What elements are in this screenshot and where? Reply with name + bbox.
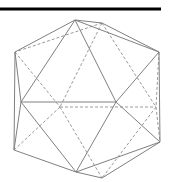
hidden-edge-BK bbox=[60, 23, 102, 107]
hidden-edges bbox=[14, 23, 160, 178]
visible-edge-GI bbox=[14, 150, 76, 172]
visible-edge-DF bbox=[116, 52, 159, 102]
hidden-edge-CK bbox=[15, 52, 60, 107]
visible-edge-AD bbox=[75, 20, 159, 52]
visible-edge-DH bbox=[159, 52, 160, 142]
hidden-edge-KJ bbox=[60, 107, 102, 178]
icosahedron-diagram bbox=[0, 0, 173, 182]
visible-edge-AF bbox=[75, 20, 116, 102]
visible-edge-EI bbox=[21, 102, 76, 172]
visible-edge-FH bbox=[116, 102, 160, 142]
visible-edges bbox=[14, 20, 160, 178]
visible-edge-EG bbox=[14, 102, 21, 150]
visible-edge-BD bbox=[102, 23, 159, 52]
visible-edge-FI bbox=[76, 102, 116, 172]
hidden-edge-LJ bbox=[102, 107, 156, 178]
visible-edge-AE bbox=[21, 20, 75, 102]
visible-edge-CG bbox=[14, 52, 15, 150]
visible-edge-IJ bbox=[76, 172, 102, 178]
hidden-edge-DL bbox=[156, 52, 159, 107]
visible-edge-AC bbox=[15, 20, 75, 52]
visible-edge-CE bbox=[15, 52, 21, 102]
